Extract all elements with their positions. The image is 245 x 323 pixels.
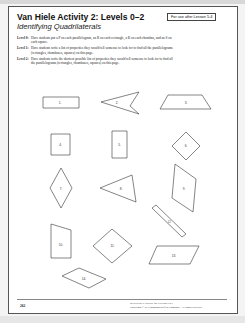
shape-13[interactable]: 13.	[149, 246, 199, 264]
footer-credits: RESOURCE BOOK for GEOMETRY Copyright © b…	[130, 302, 202, 309]
shape-6[interactable]: 6.	[172, 132, 200, 160]
shape-label: 5.	[118, 143, 121, 147]
shape-9[interactable]: 9.	[172, 164, 196, 212]
shape-label: 8.	[120, 187, 123, 191]
shape-11[interactable]: 11.	[93, 229, 132, 263]
shape-5[interactable]: 5.	[112, 131, 127, 158]
copyright-line: Copyright © by Houghton Mifflin Company.…	[130, 306, 202, 310]
shape-label: 3.	[185, 101, 188, 105]
footer-divider	[17, 299, 227, 300]
shape-label: 7.	[60, 187, 63, 191]
shape-label: 11.	[110, 244, 114, 248]
shape-2[interactable]: 2.	[101, 92, 139, 114]
shape-label: 4.	[59, 143, 62, 147]
shape-label: 9.	[183, 187, 186, 191]
scan-bottom-edge	[0, 316, 245, 323]
shape-8[interactable]: 8.	[100, 175, 136, 202]
shape-label: 13.	[172, 254, 177, 258]
shape-14[interactable]: 14.	[62, 268, 106, 288]
shape-10[interactable]: 10.	[51, 224, 71, 258]
shape-4[interactable]: 4.	[51, 134, 70, 155]
shape-label: 1.	[59, 101, 62, 105]
shape-1[interactable]: 1.	[43, 97, 79, 108]
shape-label: 12.	[168, 220, 172, 224]
shape-12[interactable]: 12.	[152, 205, 186, 237]
shape-label: 14.	[82, 277, 87, 281]
shape-label: 2.	[116, 101, 119, 105]
shape-3[interactable]: 3.	[160, 95, 211, 109]
shapes-canvas: 1. 2. 3. 4. 5. 6. 7. 8. 9. 10.	[0, 0, 245, 323]
page-number: 262	[20, 304, 25, 308]
shape-label: 6.	[185, 144, 188, 148]
shape-7[interactable]: 7.	[50, 168, 72, 208]
shape-label: 10.	[59, 243, 64, 247]
